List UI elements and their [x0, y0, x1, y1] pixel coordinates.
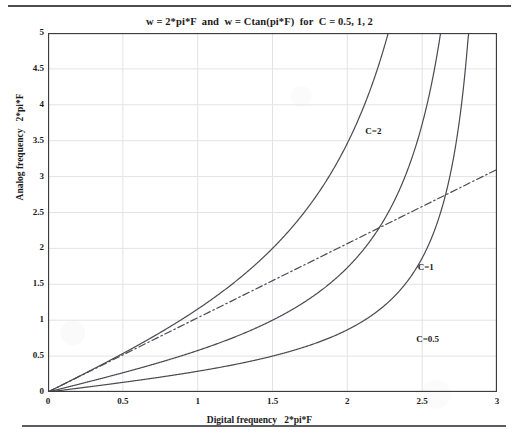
x-tick-label: 3: [477, 396, 517, 406]
plot-area: C=2C=1C=0.5: [48, 33, 497, 392]
chart-title: w = 2*pi*F and w = Ctan(pi*F) for C = 0.…: [0, 16, 519, 27]
curve-label-c-1: C=1: [418, 262, 434, 272]
x-tick-label: 2.5: [402, 396, 442, 406]
x-tick-label: 2: [327, 396, 367, 406]
y-axis-title: Analog frequency 2*pi*F: [15, 9, 25, 285]
y-tick-label: 1: [4, 314, 44, 324]
y-tick-label: 0.5: [4, 350, 44, 360]
y-tick-label: 0: [4, 386, 44, 396]
x-axis-tick-labels: 00.511.522.53: [48, 396, 497, 412]
figure: w = 2*pi*F and w = Ctan(pi*F) for C = 0.…: [0, 0, 519, 438]
x-axis-title: Digital frequency 2*pi*F: [0, 415, 519, 425]
x-tick-label: 0: [28, 396, 68, 406]
curve-label-c-2: C=2: [365, 126, 381, 136]
curve-label-c-0-5: C=0.5: [416, 334, 439, 344]
x-tick-label: 1.5: [253, 396, 293, 406]
x-tick-label: 0.5: [103, 396, 143, 406]
x-tick-label: 1: [178, 396, 218, 406]
